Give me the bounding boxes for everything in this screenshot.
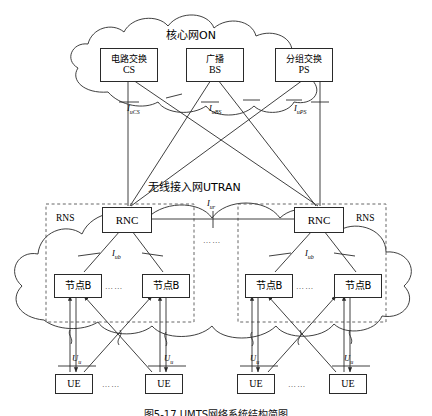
link-rnc-right-nb2 xyxy=(324,231,356,272)
cn-node-cs-zh: 电路交换 xyxy=(111,54,147,64)
cn-node-cs[interactable]: 电路交换 CS xyxy=(100,48,158,82)
iub-left-sub: ub xyxy=(115,254,121,260)
rns-label-left: RNS xyxy=(56,213,74,223)
core-network-cloud-label: 核心网ON xyxy=(166,26,216,42)
ellipsis-nodeb-right: …… xyxy=(296,282,314,291)
ue-2[interactable]: UE xyxy=(145,374,183,394)
nodeb-4-label: 节点B xyxy=(345,280,372,291)
cn-node-bs[interactable]: 广播 BS xyxy=(186,48,244,82)
interface-label-iur: Iur xyxy=(207,198,215,210)
interface-label-uu-2: Uu xyxy=(164,353,173,365)
rnc-left[interactable]: RNC xyxy=(102,207,152,233)
interface-label-iu-cs: IuCS xyxy=(127,103,140,115)
iu-bs-sub: uBS xyxy=(212,109,222,115)
cn-node-bs-zh: 广播 xyxy=(206,54,224,64)
nodeb-2[interactable]: 节点B xyxy=(142,274,190,298)
ue-4-label: UE xyxy=(341,378,354,389)
interface-label-iu-ps: IuPS xyxy=(294,103,307,115)
nodeb-3[interactable]: 节点B xyxy=(245,274,293,298)
interface-label-uu-4: Uu xyxy=(344,353,353,365)
interface-label-iub-right: Iub xyxy=(305,248,314,260)
uu-1-sub: u xyxy=(78,359,81,365)
nodeb-3-label: 节点B xyxy=(256,280,283,291)
iu-cs-tick2 xyxy=(166,94,182,98)
cn-node-ps-en: PS xyxy=(298,64,309,75)
access-network-cloud-label: 无线接入网UTRAN xyxy=(148,178,241,194)
uu-4-sub: u xyxy=(350,359,353,365)
ue-1[interactable]: UE xyxy=(55,374,93,394)
ellipsis-ue-right: …… xyxy=(288,380,306,389)
rnc-right-label: RNC xyxy=(308,214,331,226)
ue-3[interactable]: UE xyxy=(237,374,275,394)
nodeb-4[interactable]: 节点B xyxy=(334,274,382,298)
uu-2-sub: u xyxy=(170,359,173,365)
interface-label-uu-3: Uu xyxy=(250,353,259,365)
ue-3-label: UE xyxy=(249,378,262,389)
iu-ps-sub: uPS xyxy=(297,109,307,115)
interface-label-uu-1: Uu xyxy=(72,353,81,365)
interface-label-iub-left: Iub xyxy=(112,248,121,260)
uu-3-sub: u xyxy=(256,359,259,365)
figure-caption: 图5-17 UMTS网络系统结构简图 xyxy=(0,406,432,416)
iub-left-tick2 xyxy=(142,253,163,256)
ellipsis-nodeb-left: …… xyxy=(105,282,123,291)
rnc-left-label: RNC xyxy=(116,214,139,226)
iub-right-sub: ub xyxy=(308,254,314,260)
iub-right-tick2 xyxy=(334,253,355,256)
interface-label-iu-bs: IuBS xyxy=(209,103,222,115)
rnc-right[interactable]: RNC xyxy=(294,207,344,233)
link-rnc-left-nb2 xyxy=(132,231,163,272)
iu-cs-sub: uCS xyxy=(130,109,140,115)
iur-sub: ur xyxy=(210,204,215,210)
ellipsis-ue-left: …… xyxy=(102,380,120,389)
ue-1-label: UE xyxy=(67,378,80,389)
umts-architecture-diagram: 核心网ON 电路交换 CS 广播 BS 分组交换 PS IuCS IuBS Iu… xyxy=(0,0,432,416)
cn-node-ps[interactable]: 分组交换 PS xyxy=(275,48,333,82)
cn-node-ps-zh: 分组交换 xyxy=(286,54,322,64)
nodeb-1-label: 节点B xyxy=(65,280,92,291)
rns-label-right: RNS xyxy=(356,213,374,223)
ue-2-label: UE xyxy=(157,378,170,389)
nodeb-1[interactable]: 节点B xyxy=(54,274,102,298)
nodeb-2-label: 节点B xyxy=(153,280,180,291)
iub-left-tick1 xyxy=(78,253,100,256)
ellipsis-between-rns: …… xyxy=(203,236,221,245)
ue-4[interactable]: UE xyxy=(329,374,367,394)
cn-node-cs-en: CS xyxy=(123,64,135,75)
iub-right-tick1 xyxy=(269,253,291,256)
cn-node-bs-en: BS xyxy=(209,64,221,75)
